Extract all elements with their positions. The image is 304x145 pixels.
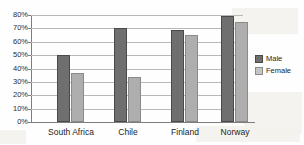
legend-item-female: Female	[255, 65, 291, 76]
legend-swatch-icon	[255, 55, 263, 63]
bar-male-chile	[114, 28, 127, 122]
y-axis-tick-label: 10%	[2, 105, 28, 113]
bar-male-south-africa	[57, 55, 70, 122]
x-axis-line	[31, 122, 255, 123]
y-axis-tick-label: 80%	[2, 11, 28, 19]
bar-male-norway	[221, 16, 234, 122]
y-axis-tick-label: 30%	[2, 78, 28, 86]
bar-group	[114, 15, 141, 122]
y-axis-tick-label: 40%	[2, 65, 28, 73]
x-axis-category-label: Norway	[195, 127, 275, 137]
legend-label: Female	[266, 67, 291, 75]
y-axis-tick-mark	[28, 69, 31, 70]
y-axis-tick-label: 60%	[2, 38, 28, 46]
chart-legend: MaleFemale	[255, 53, 291, 77]
y-axis-tick-mark	[28, 82, 31, 83]
bar-group	[171, 15, 198, 122]
y-axis-tick-label: 20%	[2, 91, 28, 99]
bar-female-finland	[185, 35, 198, 122]
y-axis-tick-mark	[28, 15, 31, 16]
bar-group	[221, 15, 248, 122]
y-axis-labels: 80%70%60%50%40%30%20%10%0%	[0, 0, 28, 145]
y-axis-tick-mark	[28, 122, 31, 123]
y-axis-tick-mark	[28, 28, 31, 29]
y-axis-tick-mark	[28, 95, 31, 96]
bar-chart: 80%70%60%50%40%30%20%10%0% MaleFemale So…	[0, 0, 304, 145]
bar-female-south-africa	[71, 73, 84, 122]
bar-group	[57, 15, 84, 122]
y-axis-tick-mark	[28, 42, 31, 43]
legend-item-male: Male	[255, 53, 291, 64]
legend-label: Male	[266, 55, 282, 63]
y-axis-tick-label: 50%	[2, 51, 28, 59]
plot-area	[31, 15, 243, 122]
legend-swatch-icon	[255, 67, 263, 75]
y-axis-tick-label: 0%	[2, 118, 28, 126]
bar-male-finland	[171, 30, 184, 122]
y-axis-tick-label: 70%	[2, 24, 28, 32]
y-axis-tick-mark	[28, 109, 31, 110]
y-axis-tick-mark	[28, 55, 31, 56]
bar-female-chile	[128, 77, 141, 122]
bar-female-norway	[235, 22, 248, 122]
